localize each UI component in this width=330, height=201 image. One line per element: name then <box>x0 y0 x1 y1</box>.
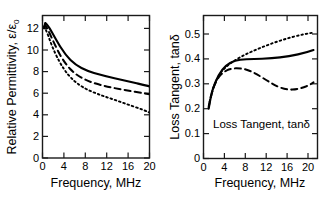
y-tick-label: 0.4 <box>185 52 200 64</box>
plot-annotation: Loss Tangent, tanδ <box>213 118 310 130</box>
figure-container: 0 2 4 6 8 10 12 0 4 8 12 16 20 Frequency… <box>0 0 330 201</box>
x-tick-label: 12 <box>101 160 113 172</box>
series-dashed <box>44 25 149 94</box>
y-axis-tick-labels: 0 0.1 0.2 0.3 0.4 0.5 <box>185 28 200 165</box>
y-tick-label: 12 <box>27 22 39 34</box>
plot-frame <box>204 16 318 159</box>
y-tick-label: 0.5 <box>185 28 200 40</box>
series-dashed <box>209 68 314 107</box>
x-tick-label: 16 <box>281 161 293 173</box>
x-tick-label: 8 <box>242 161 248 173</box>
loss-tangent-plot: 0 0.1 0.2 0.3 0.4 0.5 0 4 8 12 16 20 Fre… <box>165 0 330 201</box>
x-axis-tick-labels: 0 4 8 12 16 20 <box>200 161 314 173</box>
y-tick-label: 0.3 <box>185 77 200 89</box>
x-axis-ticks <box>43 16 150 159</box>
x-tick-label: 4 <box>221 161 227 173</box>
x-tick-label: 0 <box>200 161 206 173</box>
y-tick-label: 6 <box>33 87 39 99</box>
y-axis-title: Relative Permittivity, ε/ε0 <box>5 19 21 154</box>
x-axis-title: Frequency, MHz <box>51 176 142 190</box>
panel-loss-tangent: 0 0.1 0.2 0.3 0.4 0.5 0 4 8 12 16 20 Fre… <box>165 0 330 201</box>
y-tick-label: 4 <box>33 108 39 120</box>
y-tick-label: 2 <box>33 130 39 142</box>
y-tick-label: 0 <box>33 152 39 164</box>
series-dotted <box>209 33 313 106</box>
y-axis-title-text: Relative Permittivity, ε/ε <box>5 24 19 155</box>
y-tick-label: 0.1 <box>185 127 200 139</box>
x-tick-label: 0 <box>39 160 45 172</box>
x-tick-label: 16 <box>122 160 134 172</box>
y-axis-ticks <box>204 34 318 159</box>
series-dotted <box>44 26 149 112</box>
y-axis-title-subscript: 0 <box>12 19 21 24</box>
x-axis-title: Frequency, MHz <box>215 176 306 190</box>
x-tick-label: 20 <box>143 160 155 172</box>
y-tick-label: 8 <box>33 65 39 77</box>
y-tick-label: 0 <box>194 152 200 164</box>
y-tick-label: 0.2 <box>185 102 200 114</box>
relative-permittivity-plot: 0 2 4 6 8 10 12 0 4 8 12 16 20 Frequency… <box>0 0 165 201</box>
series-solid <box>209 50 314 109</box>
svg-text:Relative Permittivity, ε/ε0: Relative Permittivity, ε/ε0 <box>5 19 21 154</box>
x-axis-tick-labels: 0 4 8 12 16 20 <box>39 160 155 172</box>
y-tick-label: 10 <box>27 44 39 56</box>
y-axis-title: Loss Tangent, tanδ <box>168 34 182 139</box>
x-tick-label: 20 <box>302 161 314 173</box>
x-tick-label: 4 <box>61 160 67 172</box>
svg-text:Loss Tangent, tanδ: Loss Tangent, tanδ <box>168 34 182 139</box>
x-tick-label: 8 <box>82 160 88 172</box>
panel-relative-permittivity: 0 2 4 6 8 10 12 0 4 8 12 16 20 Frequency… <box>0 0 165 201</box>
y-axis-tick-labels: 0 2 4 6 8 10 12 <box>27 22 39 164</box>
plot-frame <box>43 16 150 159</box>
x-tick-label: 12 <box>260 161 272 173</box>
